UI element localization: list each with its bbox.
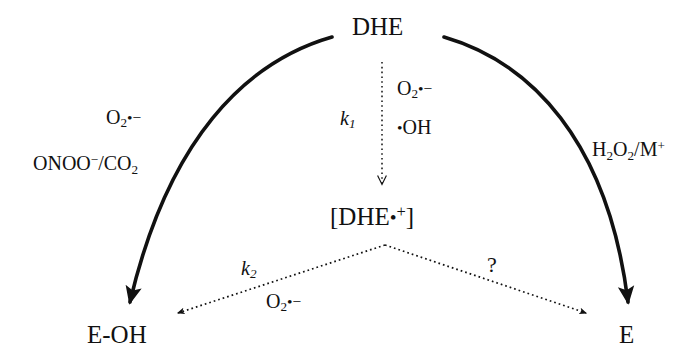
label-left-peroxynitrite: ONOO−/CO2 [33,152,138,177]
arrow-dhe-to-e [444,37,628,302]
node-e: E [619,322,634,347]
arrow-dhe-to-eoh [130,37,332,302]
label-left-superoxide: O2•− [106,106,141,131]
label-rate-constant-k2: k2 [241,258,256,281]
node-e-oh: E-OH [87,322,147,347]
reaction-scheme-canvas: DHE O2•− ONOO−/CO2 k1 O2•− •OH H2O2/M+ [… [0,0,700,360]
label-center-hydroxyl-radical: •OH [397,117,432,137]
node-radical-cation: [DHE•+] [330,204,414,229]
arrow-layer [0,0,700,360]
label-right-peroxide: H2O2/M+ [592,138,665,163]
label-lower-left-superoxide: O2•− [266,290,301,315]
label-center-oxidants: O2•− •OH [397,78,432,137]
label-center-superoxide: O2•− [397,78,432,101]
label-rate-constant-k1: k1 [340,108,355,131]
label-unknown-pathway: ? [487,254,497,276]
node-dhe: DHE [352,14,403,39]
arrow-radical-cation-to-e [385,245,586,313]
